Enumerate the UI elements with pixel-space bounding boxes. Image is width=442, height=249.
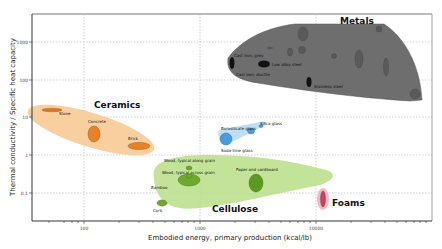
borosilicate-glass-label: Borosilicate glass (221, 126, 256, 131)
cork-label: Cork (153, 208, 163, 213)
stainless-steel-label: Stainless steel (314, 84, 343, 89)
x-tick-1000: 1000 (194, 226, 206, 231)
x-tick-100: 100 (80, 226, 89, 231)
y-tick-10: 10 (22, 115, 28, 120)
paper-label: Paper and cardboard (236, 167, 278, 172)
stainless-steel-bubble (307, 77, 312, 87)
metal-bubble (376, 26, 382, 32)
foam-bubble (321, 191, 326, 207)
soda-lime-glass-label: Soda-lime glass (221, 148, 253, 153)
stone-label: Stone (59, 111, 71, 116)
x-tick-10000: 10000 (309, 226, 323, 231)
brick-label: Brick (128, 136, 139, 141)
metal-bubble (298, 27, 308, 41)
metal-bubble (355, 50, 363, 68)
low-alloy-steel-bubble (258, 61, 270, 68)
x-axis-title: Embodied energy, primary production (kca… (148, 234, 312, 242)
brick-bubble (128, 143, 150, 150)
y-tick-100: 100 (19, 78, 28, 83)
wood-along-grain-label: Wood, typical along grain (164, 158, 215, 163)
metal-bubble (384, 58, 389, 76)
bamboo-label: Bamboo (151, 185, 168, 190)
wood-across-grain-label: Wood, typical across grain (162, 170, 215, 175)
y-axis-title: Thermal conductivity / Specific heat cap… (9, 38, 17, 197)
soda-lime-glass-bubble (220, 133, 232, 145)
concrete-bubble (88, 126, 100, 142)
metal-bubble (299, 47, 306, 54)
y-tick-1000: 1000 (17, 40, 29, 45)
low-alloy-steel-label: Low alloy steel (272, 62, 302, 67)
ceramics-label: Ceramics (94, 100, 140, 110)
concrete-label: Concrete (88, 119, 107, 124)
metals-label: Metals (340, 16, 374, 26)
metal-bubble (332, 54, 337, 59)
metal-bubble (267, 47, 273, 49)
silica-glass-label: Silica glass (260, 121, 282, 126)
metal-bubble (288, 48, 293, 56)
material-selection-chart: Metals Cast iron, grey Low alloy steel C… (0, 0, 442, 249)
metal-bubble (410, 89, 420, 99)
paper-bubble (249, 174, 263, 192)
cellulose-label: Cellulose (212, 204, 258, 214)
cork-bubble (157, 200, 167, 206)
foams-label: Foams (332, 198, 365, 208)
y-tick-0-1: 0.1 (21, 191, 28, 196)
y-tick-1: 1 (25, 153, 28, 158)
cast-iron-bubble (230, 57, 235, 69)
cast-iron-grey-label: Cast iron, grey (234, 53, 264, 58)
cast-iron-ductile-label: Cast iron, ductile (236, 72, 270, 77)
